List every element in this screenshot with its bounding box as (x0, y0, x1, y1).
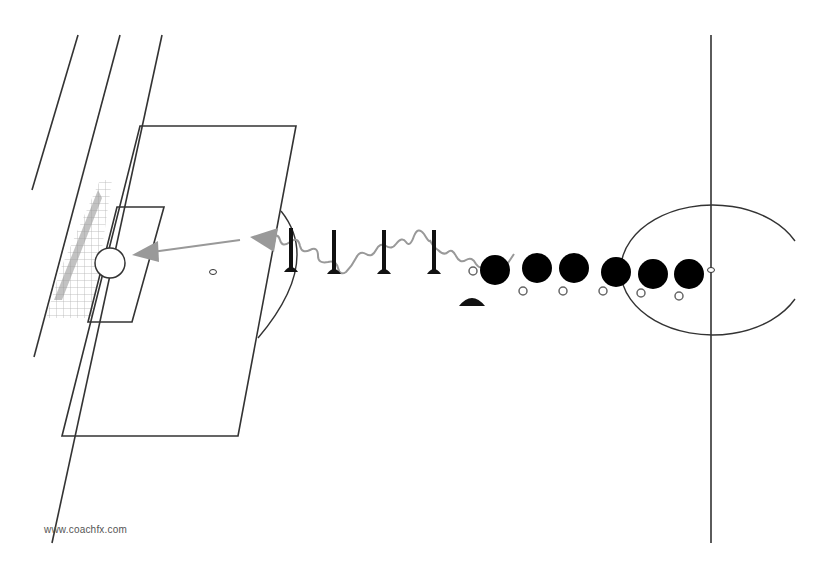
pole-3 (377, 230, 391, 274)
goal-line-outer (32, 35, 78, 190)
ball-icon (637, 289, 645, 297)
player-2 (519, 253, 552, 295)
ball-icon (599, 287, 607, 295)
ball-icon (519, 287, 527, 295)
penalty-spot (210, 270, 217, 275)
player-1 (469, 255, 510, 285)
center-spot (708, 268, 715, 273)
shot-arrowhead-icon (132, 241, 159, 262)
goal-target-circle (95, 248, 125, 278)
ball-icon (675, 292, 683, 300)
ball-icon (469, 267, 477, 275)
drill-diagram (0, 0, 824, 569)
player-6 (674, 259, 704, 300)
cone-icon (459, 298, 485, 306)
player-3 (559, 253, 589, 295)
player-5 (637, 259, 668, 297)
players (469, 253, 704, 300)
dribble-path (270, 230, 514, 273)
dribble-arrowhead-icon (250, 228, 278, 252)
watermark: www.coachfx.com (44, 524, 127, 535)
player-4 (599, 257, 631, 295)
goal-net (46, 180, 112, 318)
ball-icon (559, 287, 567, 295)
shot-arrow (132, 240, 240, 262)
pole-2 (327, 230, 341, 274)
